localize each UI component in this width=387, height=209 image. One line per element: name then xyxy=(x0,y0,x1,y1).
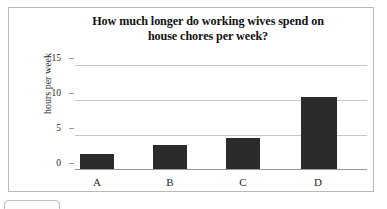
y-tick-dash-0 xyxy=(69,163,74,164)
y-tick-label-10: 10 xyxy=(35,88,61,98)
y-tick-dash-15 xyxy=(69,58,74,59)
y-tick-dash-10 xyxy=(69,93,74,94)
x-tick-label-b: B xyxy=(150,176,190,188)
gridline-15 xyxy=(75,65,367,66)
chart-title-line-1: How much longer do working wives spend o… xyxy=(53,14,363,29)
bottom-left-panel-edge xyxy=(4,200,60,209)
y-tick-dash-5 xyxy=(69,128,74,129)
y-axis-title: hours per week xyxy=(42,39,53,129)
chart-frame: How much longer do working wives spend o… xyxy=(8,7,374,192)
x-axis-line xyxy=(75,169,367,170)
x-tick-label-d: D xyxy=(298,176,338,188)
y-tick-label-15: 15 xyxy=(35,53,61,63)
chart-title: How much longer do working wives spend o… xyxy=(53,14,363,43)
bar-b xyxy=(153,145,187,170)
bar-a xyxy=(80,154,114,169)
y-tick-label-0: 0 xyxy=(35,158,61,168)
y-tick-label-5: 5 xyxy=(35,123,61,133)
plot-area xyxy=(75,65,367,170)
x-tick-label-c: C xyxy=(223,176,263,188)
chart-title-line-2: house chores per week? xyxy=(53,29,363,44)
bar-c xyxy=(226,138,260,169)
x-tick-label-a: A xyxy=(77,176,117,188)
bar-d xyxy=(301,97,337,169)
